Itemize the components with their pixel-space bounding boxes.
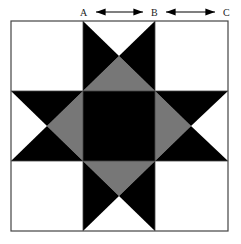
- center-square: [83, 91, 155, 161]
- label-b: B: [151, 7, 158, 18]
- label-a: A: [80, 7, 88, 18]
- quilt-block-diagram: A B C: [0, 0, 241, 244]
- label-c: C: [223, 7, 230, 18]
